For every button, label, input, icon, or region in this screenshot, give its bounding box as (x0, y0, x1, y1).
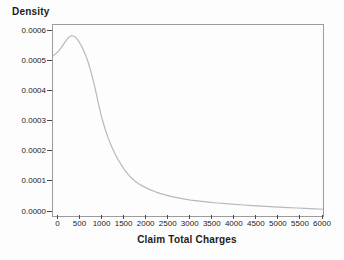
y-tick-mark (47, 120, 52, 121)
kernel-density-line (53, 36, 323, 210)
y-tick-label: 0.0001 (8, 176, 46, 185)
y-tick-mark (47, 150, 52, 151)
y-tick-mark (47, 180, 52, 181)
y-tick-label: 0.0000 (8, 207, 46, 216)
y-tick-label: 0.0004 (8, 86, 46, 95)
density-curve (53, 25, 323, 216)
y-tick-mark (47, 60, 52, 61)
y-tick-label: 0.0003 (8, 116, 46, 125)
y-tick-label: 0.0005 (8, 56, 46, 65)
y-tick-mark (47, 211, 52, 212)
y-tick-label: 0.0002 (8, 146, 46, 155)
y-tick-label: 0.0006 (8, 26, 46, 35)
y-tick-mark (47, 90, 52, 91)
density-chart: Density 0.00000.00010.00020.00030.00040.… (0, 0, 344, 260)
plot-frame (52, 24, 324, 217)
x-tick-label: 6000 (307, 219, 337, 228)
y-axis-title: Density (12, 6, 50, 17)
y-tick-mark (47, 30, 52, 31)
x-axis-title: Claim Total Charges (52, 234, 322, 245)
